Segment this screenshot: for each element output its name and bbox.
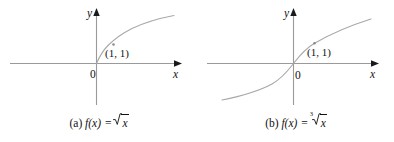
caption-b-function: f(x) [281,117,297,129]
x-axis-arrow-icon [174,60,182,66]
caption-a-label: (a) [69,117,82,129]
point-label-1-1: (1, 1) [307,46,331,59]
plot-cbrt: y x 0 (1, 1) [197,0,394,112]
caption-b: (b) f(x) =3 x [197,113,394,142]
origin-label: 0 [90,68,96,80]
point-marker-1-1 [313,42,316,45]
point-marker-1-1 [112,43,115,46]
curve-cbrt [222,19,371,100]
y-axis-label: y [86,7,93,20]
caption-b-radical: 3 x [310,113,326,133]
caption-a: (a) f(x) = x [0,113,197,142]
caption-a-function: f(x) [85,117,101,129]
radical-vinculum [121,114,128,115]
caption-b-label: (b) [265,117,278,129]
radical-hook-icon [312,113,321,125]
y-axis-label: y [283,7,290,20]
panel-a: y x 0 (1, 1) (a) f(x) = x [0,0,197,142]
x-axis-arrow-icon [371,60,379,66]
radical-vinculum [320,114,327,115]
caption-a-radical: x [113,113,127,133]
panel-b: y x 0 (1, 1) (b) f(x) =3 x [197,0,394,142]
caption-a-radicand: x [122,117,127,129]
caption-a-equals: = [104,117,113,129]
point-label-1-1: (1, 1) [105,47,129,60]
caption-b-equals: = [300,117,309,129]
x-axis-label: x [369,68,376,80]
x-axis-label: x [172,68,179,80]
y-axis-arrow-icon [93,8,99,16]
plot-sqrt: y x 0 (1, 1) [0,0,197,112]
origin-label: 0 [295,69,301,81]
figure-two-root-graphs: y x 0 (1, 1) (a) f(x) = x [0,0,394,142]
y-axis-arrow-icon [290,8,296,16]
caption-b-radicand: x [321,117,326,129]
